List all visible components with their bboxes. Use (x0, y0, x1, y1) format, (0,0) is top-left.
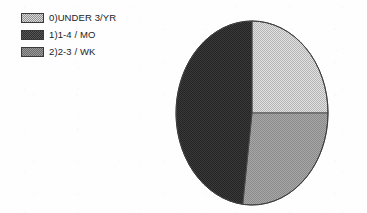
legend-swatch-icon (21, 47, 44, 57)
chart-legend: 0)UNDER 3/YR 1)1-4 / MO 2)2-3 / WK (21, 10, 116, 61)
pie-slice-under-3-yr (252, 21, 328, 113)
legend-swatch-icon (21, 13, 44, 23)
legend-item-1-4-mo: 1)1-4 / MO (21, 27, 116, 43)
legend-swatch-icon (21, 30, 44, 40)
pie-slice-2-3-wk (243, 113, 328, 205)
pie-chart-page: 0)UNDER 3/YR 1)1-4 / MO 2)2-3 / WK (0, 0, 367, 213)
legend-item-label: 0)UNDER 3/YR (49, 13, 116, 23)
pie-slice-1-4-mo (176, 21, 252, 204)
legend-item-label: 2)2-3 / WK (49, 47, 95, 57)
legend-item-2-3-wk: 2)2-3 / WK (21, 44, 116, 60)
legend-item-label: 1)1-4 / MO (49, 30, 95, 40)
legend-item-under-3-yr: 0)UNDER 3/YR (21, 10, 116, 26)
